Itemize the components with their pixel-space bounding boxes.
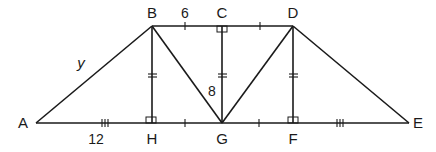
segment-AB	[36, 26, 152, 123]
point-label-E: E	[413, 114, 423, 131]
point-label-G: G	[216, 130, 228, 147]
measure-AH: 12	[88, 131, 104, 147]
measure-AB: y	[76, 54, 86, 71]
point-label-H: H	[147, 130, 158, 147]
measure-CG: 8	[208, 83, 216, 99]
point-label-A: A	[18, 114, 28, 131]
segment-DE	[293, 26, 409, 123]
point-label-B: B	[147, 4, 157, 21]
geometry-diagram: A B C D E H G F 6 8 y 12	[0, 0, 436, 152]
segment-DG	[222, 26, 293, 123]
segment-BG	[152, 26, 222, 123]
right-angle-H-marker	[146, 117, 156, 123]
point-label-F: F	[288, 130, 297, 147]
point-label-D: D	[288, 4, 299, 21]
measure-BC: 6	[181, 5, 189, 21]
point-label-C: C	[217, 4, 228, 21]
